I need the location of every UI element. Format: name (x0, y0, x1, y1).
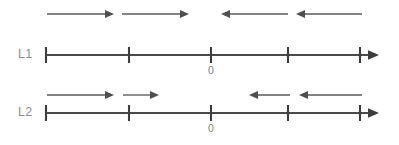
number-line-l1: L1 0 (18, 10, 379, 76)
vector-l2-v4 (299, 91, 362, 99)
axis-arrowhead-l1 (368, 50, 379, 60)
vector-arrowhead-left (249, 91, 258, 99)
vector-l2-v1 (47, 91, 114, 99)
vector-l1-v3 (221, 10, 288, 18)
vector-l1-v4 (296, 10, 362, 18)
vector-arrowhead-right (150, 91, 159, 99)
axis-arrowhead-l2 (368, 108, 379, 118)
vector-group-l1 (47, 10, 362, 18)
line-label-l2: L2 (18, 105, 33, 119)
vector-l2-v3 (249, 91, 290, 99)
vector-arrowhead-right (105, 91, 114, 99)
vector-arrowhead-right (105, 10, 114, 18)
origin-label-l1: 0 (208, 64, 214, 76)
vector-l2-v2 (123, 91, 159, 99)
vector-l1-v2 (122, 10, 189, 18)
number-line-figure: L1 0 (0, 0, 399, 145)
vector-l1-v1 (47, 10, 114, 18)
vector-group-l2 (47, 91, 362, 99)
origin-label-l2: 0 (208, 122, 214, 134)
line-label-l1: L1 (18, 47, 33, 61)
figure-canvas: L1 0 (0, 0, 399, 145)
vector-arrowhead-left (299, 91, 308, 99)
vector-arrowhead-left (296, 10, 305, 18)
vector-arrowhead-right (180, 10, 189, 18)
vector-arrowhead-left (221, 10, 230, 18)
number-line-l2: L2 0 (18, 91, 379, 134)
